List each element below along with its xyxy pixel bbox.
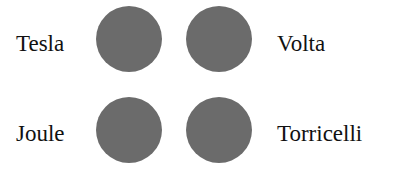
label-volta: Volta — [277, 32, 325, 55]
label-torricelli: Torricelli — [277, 122, 362, 145]
circle-bottom-left — [96, 97, 162, 163]
circle-bottom-right — [186, 97, 252, 163]
circle-top-left — [96, 6, 162, 72]
label-joule: Joule — [16, 122, 65, 145]
circle-top-right — [186, 6, 252, 72]
label-tesla: Tesla — [16, 32, 64, 55]
